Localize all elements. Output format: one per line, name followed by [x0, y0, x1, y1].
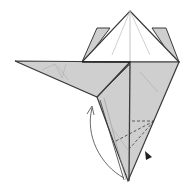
origami-diagram — [0, 0, 187, 195]
diagram-canvas — [0, 0, 187, 195]
push-arrow-icon — [145, 151, 152, 160]
